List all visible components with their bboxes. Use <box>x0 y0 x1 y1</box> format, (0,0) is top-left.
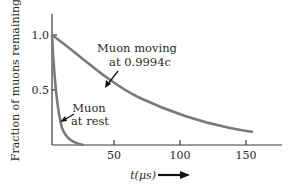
xtick-label-100: 100 <box>170 149 191 162</box>
xtick-label-150: 150 <box>236 149 257 162</box>
curve-muon-rest <box>52 35 84 145</box>
annotation-moving-line2: at 0.9994c <box>109 55 171 69</box>
ytick-label-05: 0.5 <box>32 84 50 97</box>
ytick-label-1: 1.0 <box>32 29 50 42</box>
x-axis-label: t(μs) <box>130 169 156 182</box>
annotation-moving-line1: Muon moving <box>97 41 178 55</box>
annotation-rest-line1: Muon <box>72 101 106 115</box>
xtick-label-50: 50 <box>107 149 121 162</box>
y-axis-label: Fraction of muons remaining <box>9 0 22 161</box>
annotation-rest-line2: at rest <box>71 114 109 128</box>
arrow-right-icon <box>158 171 190 179</box>
muon-decay-chart: 1.0 0.5 50 100 150 Fraction of muons rem… <box>0 0 294 186</box>
